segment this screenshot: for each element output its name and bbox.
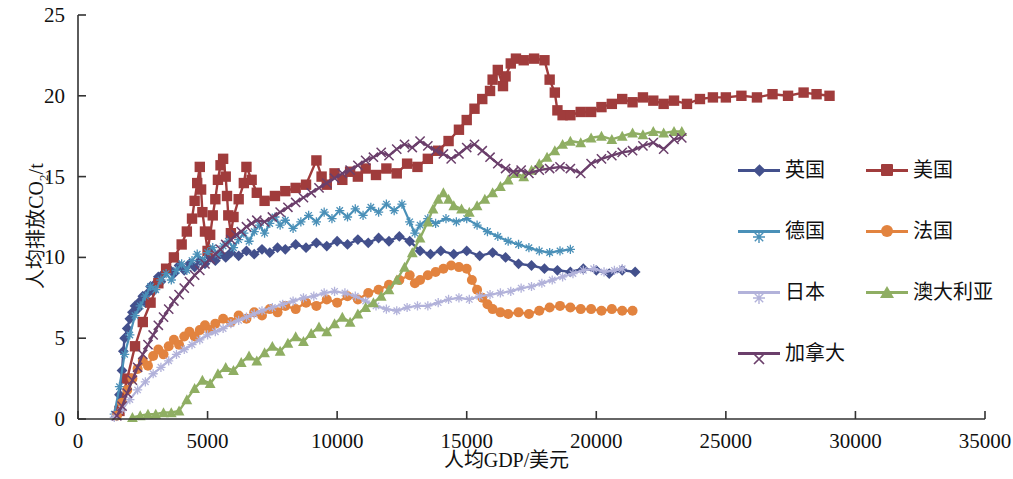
data-point (172, 350, 181, 359)
data-point (607, 304, 617, 314)
data-point (196, 184, 206, 194)
data-point (539, 55, 549, 65)
data-point (169, 296, 178, 305)
data-point (465, 295, 474, 304)
data-point (545, 248, 554, 257)
legend-item-日本[interactable]: 日本 (738, 282, 825, 302)
legend-item-美国[interactable]: 美国 (866, 160, 953, 180)
data-point (576, 107, 586, 117)
data-point (628, 306, 638, 316)
data-point (576, 304, 586, 314)
data-point (514, 307, 524, 317)
data-point (352, 234, 363, 245)
data-point (164, 305, 173, 314)
data-point (229, 243, 238, 252)
data-point (467, 275, 477, 285)
data-point (638, 92, 648, 102)
data-point (133, 385, 142, 394)
legend-item-德国[interactable]: 德国 (738, 221, 825, 241)
data-point (138, 317, 148, 327)
legend-swatch-square-icon (866, 161, 908, 179)
data-point (579, 266, 588, 275)
legend-label: 美国 (913, 160, 953, 180)
data-point (552, 265, 563, 276)
data-point (222, 191, 232, 201)
y-tick-label: 5 (55, 326, 66, 350)
data-point (721, 92, 731, 102)
data-point (454, 125, 464, 135)
data-point (527, 282, 536, 291)
data-point (373, 233, 384, 244)
data-point (487, 247, 498, 258)
data-point (290, 239, 301, 250)
data-point (182, 226, 192, 236)
y-tick-label: 20 (44, 84, 65, 108)
data-point (246, 175, 256, 185)
data-point (399, 262, 410, 272)
data-point (219, 324, 228, 333)
data-point (311, 155, 321, 165)
data-point (141, 292, 150, 301)
data-point (539, 263, 550, 274)
data-point (193, 250, 202, 259)
data-point (448, 249, 459, 260)
data-point (428, 204, 439, 214)
data-point (607, 99, 617, 109)
data-point (363, 237, 374, 248)
legend-item-加拿大[interactable]: 加拿大 (738, 343, 845, 363)
legend-swatch-plus-icon (738, 222, 780, 240)
data-point (537, 279, 546, 288)
data-point (351, 292, 360, 301)
data-point (390, 206, 399, 215)
data-point (566, 245, 575, 254)
data-point (555, 301, 565, 311)
data-point (363, 288, 373, 298)
data-point (309, 292, 318, 301)
data-point (335, 206, 344, 215)
data-point (576, 169, 585, 178)
data-point (340, 288, 349, 297)
data-point (526, 260, 537, 271)
data-point (405, 217, 414, 226)
data-point (783, 91, 793, 101)
legend-item-英国[interactable]: 英国 (738, 160, 825, 180)
data-point (233, 194, 243, 204)
legend-marker-plus-icon (753, 225, 765, 237)
data-point (187, 340, 196, 349)
data-point (630, 267, 641, 278)
series-美国 (114, 53, 834, 416)
data-point (478, 146, 487, 155)
data-point (241, 162, 251, 172)
data-point (798, 87, 808, 97)
legend-label: 法国 (913, 221, 953, 241)
legend-label: 澳大利亚 (913, 282, 993, 302)
data-point (545, 302, 555, 312)
legend-swatch-x-icon (738, 344, 780, 362)
data-point (351, 204, 360, 213)
data-point (384, 236, 395, 247)
data-point (244, 351, 255, 361)
legend-item-法国[interactable]: 法国 (866, 221, 953, 241)
data-point (752, 92, 762, 102)
series-layer (110, 53, 835, 422)
data-point (444, 295, 453, 304)
data-point (332, 236, 343, 247)
data-point (281, 216, 290, 225)
data-point (374, 208, 383, 217)
data-point (260, 229, 269, 238)
data-point (550, 87, 560, 97)
y-axis-title-pre: 人均排放CO (25, 181, 47, 289)
legend-item-澳大利亚[interactable]: 澳大利亚 (866, 282, 993, 302)
data-point (244, 237, 253, 246)
data-point (369, 153, 378, 162)
data-point (290, 331, 301, 341)
data-point (447, 154, 456, 163)
data-point (330, 287, 339, 296)
data-point (301, 242, 312, 253)
series-法国 (112, 260, 638, 420)
data-point (288, 224, 297, 233)
data-point (120, 350, 129, 359)
data-point (408, 143, 417, 152)
data-point (599, 267, 608, 276)
data-point (180, 284, 189, 293)
